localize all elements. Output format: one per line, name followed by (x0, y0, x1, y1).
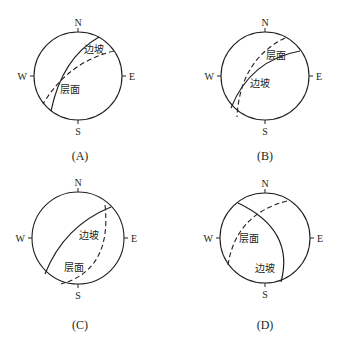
panel-caption: (A) (72, 149, 89, 163)
west-label: W (16, 233, 26, 244)
bedding-label: 层面 (239, 233, 259, 244)
bedding-label: 层面 (266, 50, 286, 61)
panel-b: N S W E 层面 边坡 (B) (205, 17, 323, 163)
west-label: W (205, 71, 215, 82)
stereonet-figure: N S W E 边坡 层面 (A) N S W E 层面 边坡 (B) (0, 0, 339, 350)
panel-a: N S W E 边坡 层面 (A) (18, 17, 136, 163)
panel-caption: (C) (72, 318, 88, 332)
slope-label: 边坡 (84, 43, 104, 55)
slope-label: 边坡 (255, 262, 275, 274)
north-label: N (261, 178, 268, 189)
panel-caption: (B) (257, 149, 273, 163)
west-label: W (204, 233, 214, 244)
east-label: E (131, 233, 137, 244)
slope-label: 边坡 (250, 77, 270, 89)
south-label: S (75, 290, 81, 301)
bedding-label: 层面 (60, 84, 80, 95)
south-label: S (262, 289, 268, 300)
bedding-label: 层面 (64, 262, 84, 273)
panel-c: N S W E 边坡 层面 (C) (16, 177, 138, 332)
north-label: N (261, 17, 268, 28)
east-label: E (317, 233, 323, 244)
west-label: W (18, 71, 28, 82)
north-label: N (74, 177, 81, 188)
east-label: E (316, 71, 322, 82)
panel-d: N S W E 层面 边坡 (D) (204, 178, 324, 332)
east-label: E (129, 71, 135, 82)
bedding-great-circle (43, 51, 114, 104)
primitive-circle (34, 32, 122, 120)
primitive-circle (221, 32, 309, 120)
panel-caption: (D) (257, 318, 274, 332)
south-label: S (262, 126, 268, 137)
south-label: S (75, 126, 81, 137)
north-label: N (74, 17, 81, 28)
slope-label: 边坡 (79, 229, 99, 241)
